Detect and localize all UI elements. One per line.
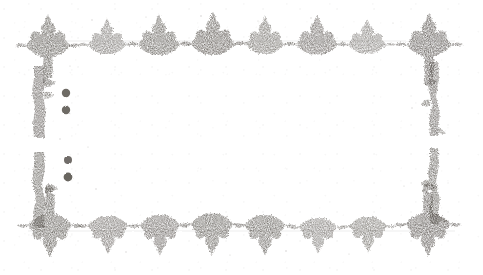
speck <box>257 20 258 21</box>
speck <box>348 253 349 254</box>
page-canvas <box>0 0 483 275</box>
dot-lower-2 <box>64 173 73 182</box>
dot-upper-2 <box>62 106 70 114</box>
speck <box>200 15 202 17</box>
speck <box>310 17 311 18</box>
speck <box>95 188 96 189</box>
speck <box>145 16 146 17</box>
speck <box>159 249 160 250</box>
speck <box>69 65 70 66</box>
speck <box>392 22 393 23</box>
speck <box>403 185 404 186</box>
speck <box>91 19 92 20</box>
speck <box>125 251 126 252</box>
speck <box>229 254 230 255</box>
ornamental-border-artwork <box>0 0 483 275</box>
speck <box>411 107 412 108</box>
dot-upper-1 <box>62 89 70 97</box>
left-rule-upper <box>32 66 46 138</box>
speck <box>285 250 287 252</box>
speck <box>59 138 60 139</box>
speck <box>87 146 88 147</box>
dot-lower-1 <box>64 156 72 164</box>
